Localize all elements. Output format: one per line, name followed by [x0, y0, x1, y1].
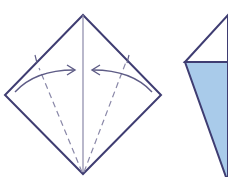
origami-diagram — [0, 0, 228, 177]
top-triangle — [185, 15, 228, 62]
step-1-diamond — [5, 15, 161, 174]
step-2-partial-shape — [185, 15, 228, 177]
blue-flap — [185, 62, 228, 177]
